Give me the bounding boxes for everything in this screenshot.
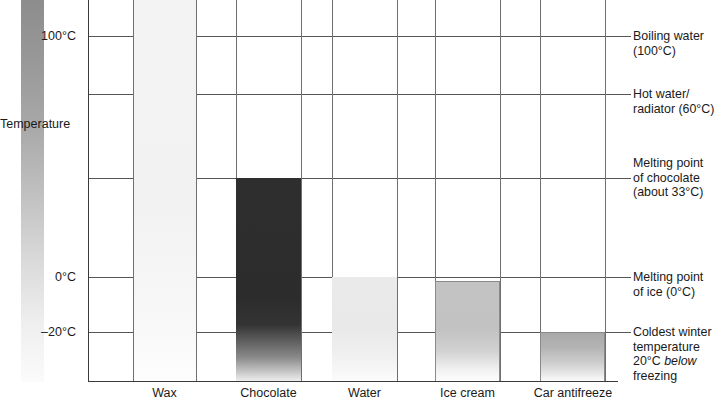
gridline-33c-axis-stub	[88, 178, 133, 179]
category-label-water: Water	[332, 386, 397, 400]
annotation-coldest-winter: Coldest winter temperature 20°C below fr…	[633, 325, 720, 383]
gridline-60c-axis-stub	[88, 94, 133, 95]
annotation-ice-line1: Melting point	[633, 270, 720, 285]
annotation-hotwater-line2: radiator (60°C)	[633, 102, 720, 117]
annotation-dash-hotwater	[618, 94, 631, 95]
annotation-hot-water: Hot water/ radiator (60°C)	[633, 87, 720, 116]
annotation-hotwater-line1: Hot water/	[633, 87, 720, 102]
separator-antifreeze-right	[605, 0, 606, 382]
y-tick-minus20c: –20°C	[0, 325, 84, 339]
gridline-100c-axis-stub	[88, 36, 133, 37]
annotation-dash-boiling	[618, 36, 631, 37]
annotation-chocolate-line3: (about 33°C)	[633, 185, 720, 200]
annotation-coldest-line1: Coldest winter	[633, 325, 720, 340]
annotation-dash-chocolate	[618, 178, 631, 179]
annotation-boiling-line2: (100°C)	[633, 44, 720, 59]
bar-chocolate	[236, 178, 301, 382]
bar-water	[332, 277, 397, 382]
gridline-minus20c-axis-stub	[88, 332, 133, 333]
category-label-car-antifreeze: Car antifreeze	[528, 386, 618, 400]
annotation-dash-ice	[618, 277, 631, 278]
category-label-chocolate: Chocolate	[236, 386, 301, 400]
y-tick-100c: 100°C	[0, 29, 84, 43]
separator-water-right	[397, 0, 398, 382]
bar-wax	[134, 0, 196, 382]
separator-antifreeze-left	[540, 0, 541, 382]
temperature-chart: Temperature 100°C 0°C –20°C Wax Chocolat…	[0, 0, 720, 418]
y-tick-100c-label: 100°C	[41, 29, 76, 43]
annotation-dash-coldest	[618, 332, 631, 333]
category-label-wax: Wax	[133, 386, 196, 400]
separator-chocolate-right	[301, 0, 302, 382]
separator-wax-right	[196, 0, 197, 382]
separator-icecream-right	[500, 0, 501, 382]
y-axis-title: Temperature	[0, 117, 96, 132]
y-tick-0c-label: 0°C	[55, 270, 76, 284]
y-tick-minus20c-label: –20°C	[41, 325, 76, 339]
annotation-ice-line2: of ice (0°C)	[633, 285, 720, 300]
annotation-coldest-line2: temperature	[633, 340, 720, 355]
annotation-melting-ice: Melting point of ice (0°C)	[633, 270, 720, 299]
annotation-chocolate-line1: Melting point	[633, 156, 720, 171]
x-axis-line	[88, 381, 618, 382]
annotation-chocolate-line2: of chocolate	[633, 171, 720, 186]
annotation-coldest-line3-emphasis: below	[664, 354, 696, 368]
annotation-melting-chocolate: Melting point of chocolate (about 33°C)	[633, 156, 720, 200]
bar-ice-cream	[435, 281, 500, 382]
annotation-coldest-line4: freezing	[633, 369, 720, 384]
annotation-coldest-line3-pre: 20°C	[633, 354, 664, 368]
y-tick-0c: 0°C	[0, 270, 84, 284]
gridline-0c-axis-stub	[88, 277, 133, 278]
annotation-coldest-line3: 20°C below	[633, 354, 720, 369]
y-axis-line	[88, 0, 89, 382]
bar-car-antifreeze	[540, 332, 605, 382]
annotation-boiling-line1: Boiling water	[633, 29, 720, 44]
annotation-boiling-water: Boiling water (100°C)	[633, 29, 720, 58]
category-label-ice-cream: Ice cream	[435, 386, 500, 400]
